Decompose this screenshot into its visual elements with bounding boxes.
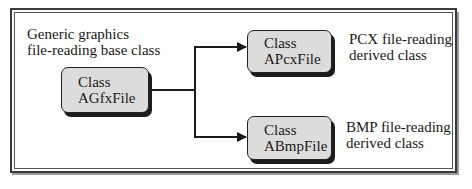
pcx-caption-line-2: derived class <box>349 47 452 63</box>
class-box-agfxfile: Class AGfxFile <box>61 67 149 113</box>
base-caption-line-1: Generic graphics <box>27 26 160 42</box>
class-box-apcxfile: Class APcxFile <box>247 30 332 73</box>
bmp-class-caption: BMP file-reading derived class <box>346 119 451 151</box>
base-class-caption: Generic graphics file-reading base class <box>27 26 160 58</box>
bmp-caption-line-1: BMP file-reading <box>346 119 451 135</box>
pcx-caption-line-1: PCX file-reading <box>349 31 452 47</box>
box-label-line-1: Class <box>264 35 331 51</box>
bmp-caption-line-2: derived class <box>346 135 451 151</box>
box-label-line-1: Class <box>264 122 331 138</box>
base-caption-line-2: file-reading base class <box>27 42 160 58</box>
class-box-abmpfile: Class ABmpFile <box>247 116 332 160</box>
pcx-class-caption: PCX file-reading derived class <box>349 31 452 63</box>
box-label-line-2: APcxFile <box>264 51 331 67</box>
box-label-line-1: Class <box>78 74 148 90</box>
box-label-line-2: AGfxFile <box>78 90 148 106</box>
box-label-line-2: ABmpFile <box>264 138 331 154</box>
